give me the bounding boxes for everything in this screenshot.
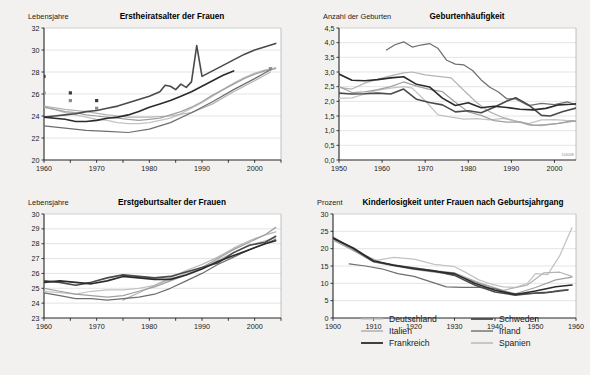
- y-tick-label: 3,5: [325, 53, 335, 62]
- legend-label-italien[interactable]: Italien: [389, 326, 412, 336]
- chart-title: Geburtenhäufigkeit: [429, 12, 504, 21]
- x-tick-label: 1960: [374, 164, 390, 173]
- data-marker: [69, 91, 72, 94]
- x-tick-label: 2000: [546, 164, 562, 173]
- x-tick-label: 1990: [503, 164, 519, 173]
- chart-title: Erstgeburtsalter der Frauen: [118, 198, 226, 207]
- x-tick-label: 2000: [247, 164, 263, 173]
- x-tick-label: 1960: [36, 322, 52, 331]
- y-tick-label: 27: [32, 254, 40, 263]
- y-unit-label: Lebensjahre: [28, 12, 69, 21]
- y-unit-label: Lebensjahre: [28, 198, 69, 207]
- x-tick-label: 1990: [194, 164, 210, 173]
- y-tick-label: 20: [321, 244, 329, 253]
- chart-panel-erstgeburtsalter: LebensjahreErstgeburtsalter der Frauen23…: [0, 186, 295, 346]
- plot-background: [44, 214, 281, 318]
- data-marker: [269, 67, 272, 70]
- data-marker: [42, 75, 45, 78]
- y-tick-label: 4,5: [325, 24, 335, 33]
- y-tick-label: 26: [32, 90, 40, 99]
- y-unit-label: Prozent: [317, 198, 342, 207]
- y-tick-label: 25: [321, 227, 329, 236]
- y-tick-label: 0,5: [325, 141, 335, 150]
- data-marker: [95, 99, 98, 102]
- x-tick-label: 1950: [331, 164, 347, 173]
- legend-label-irland[interactable]: Irland: [499, 326, 521, 336]
- y-tick-label: 4,0: [325, 38, 335, 47]
- data-marker: [95, 107, 98, 110]
- chart-title: Erstheiratsalter der Frauen: [120, 12, 225, 21]
- y-tick-label: 32: [32, 24, 40, 33]
- x-tick-label: 1970: [89, 164, 105, 173]
- y-tick-label: 30: [321, 210, 329, 219]
- shared-legend: DeutschlandItalienFrankreichSchwedenIrla…: [295, 312, 590, 375]
- chart-geburtenhaeufigkeit: Anzahl der GeburtenGeburtenhäufigkeit0,0…: [295, 0, 590, 188]
- y-tick-label: 29: [32, 224, 40, 233]
- y-tick-label: 24: [32, 112, 40, 121]
- y-tick-label: 15: [321, 262, 329, 271]
- data-marker: [69, 99, 72, 102]
- y-tick-label: 10: [321, 279, 329, 288]
- chart-erstgeburtsalter: LebensjahreErstgeburtsalter der Frauen23…: [0, 186, 295, 346]
- y-tick-label: 28: [32, 239, 40, 248]
- x-tick-label: 2000: [247, 322, 263, 331]
- x-tick-label: 1980: [141, 322, 157, 331]
- legend-label-frankreich[interactable]: Frankreich: [389, 338, 430, 348]
- demographics-figure: LebensjahreErstheiratsalter der Frauen20…: [0, 0, 590, 375]
- legend-label-deutschland[interactable]: Deutschland: [389, 314, 437, 324]
- y-tick-label: 3,0: [325, 68, 335, 77]
- y-tick-label: 2,0: [325, 97, 335, 106]
- y-tick-label: 25: [32, 284, 40, 293]
- y-tick-label: 30: [32, 46, 40, 55]
- y-tick-label: 1,5: [325, 112, 335, 121]
- x-tick-label: 1980: [460, 164, 476, 173]
- chart-annotation: 10400E: [562, 153, 575, 157]
- y-tick-label: 28: [32, 68, 40, 77]
- chart-panel-geburtenhaeufigkeit: Anzahl der GeburtenGeburtenhäufigkeit0,0…: [295, 0, 590, 188]
- y-tick-label: 5: [325, 296, 329, 305]
- y-tick-label: 24: [32, 299, 40, 308]
- y-unit-label: Anzahl der Geburten: [323, 12, 391, 21]
- x-tick-label: 1970: [417, 164, 433, 173]
- chart-panel-erstheiratsalter: LebensjahreErstheiratsalter der Frauen20…: [0, 0, 295, 188]
- x-tick-label: 1960: [36, 164, 52, 173]
- y-tick-label: 22: [32, 134, 40, 143]
- y-tick-label: 2,5: [325, 82, 335, 91]
- legend-label-schweden[interactable]: Schweden: [499, 314, 539, 324]
- y-tick-label: 1,0: [325, 126, 335, 135]
- x-tick-label: 1990: [194, 322, 210, 331]
- chart-title: Kinderlosigkeit unter Frauen nach Geburt…: [362, 198, 563, 207]
- legend-svg: DeutschlandItalienFrankreichSchwedenIrla…: [295, 312, 590, 375]
- x-tick-label: 1970: [89, 322, 105, 331]
- y-tick-label: 26: [32, 269, 40, 278]
- y-tick-label: 30: [32, 210, 40, 219]
- chart-erstheiratsalter: LebensjahreErstheiratsalter der Frauen20…: [0, 0, 295, 188]
- x-tick-label: 1980: [141, 164, 157, 173]
- legend-label-spanien[interactable]: Spanien: [499, 338, 531, 348]
